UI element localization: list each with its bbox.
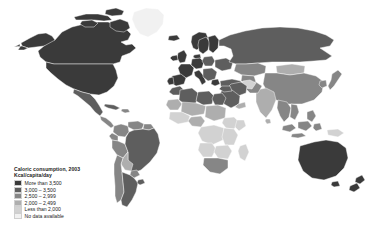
legend-row[interactable]: 3,000 – 3,500 — [14, 187, 106, 194]
legend-swatch-2000-2499 — [14, 200, 22, 206]
map-figure: Caloric consumption, 2003 Kcal/capita/da… — [0, 0, 374, 237]
legend-label: No data available — [25, 213, 64, 220]
legend-swatch-3000-3500 — [14, 187, 22, 193]
legend-row[interactable]: 2,000 – 2,499 — [14, 200, 106, 207]
country-chad-sudan[interactable] — [205, 105, 226, 121]
legend-label: More than 3,500 — [25, 180, 62, 187]
legend-row[interactable]: No data available — [14, 213, 106, 220]
legend-label: 2,000 – 2,499 — [25, 200, 56, 207]
country-poland[interactable] — [202, 56, 215, 66]
legend-row[interactable]: More than 3,500 — [14, 180, 106, 187]
legend-swatch-no-data — [14, 213, 22, 219]
legend-row[interactable]: Less than 2,000 — [14, 206, 106, 213]
legend-label: 2,500 – 2,999 — [25, 193, 56, 200]
legend-label: Less than 2,000 — [25, 206, 61, 213]
legend-subtitle: Kcal/capita/day — [14, 172, 106, 178]
legend-swatch-more-than-3500 — [14, 180, 22, 186]
legend-swatch-2500-2999 — [14, 193, 22, 199]
legend-label: 3,000 – 3,500 — [25, 187, 56, 194]
map-legend: Caloric consumption, 2003 Kcal/capita/da… — [14, 166, 106, 219]
legend-row[interactable]: 2,500 – 2,999 — [14, 193, 106, 200]
legend-swatch-less-than-2000 — [14, 206, 22, 212]
